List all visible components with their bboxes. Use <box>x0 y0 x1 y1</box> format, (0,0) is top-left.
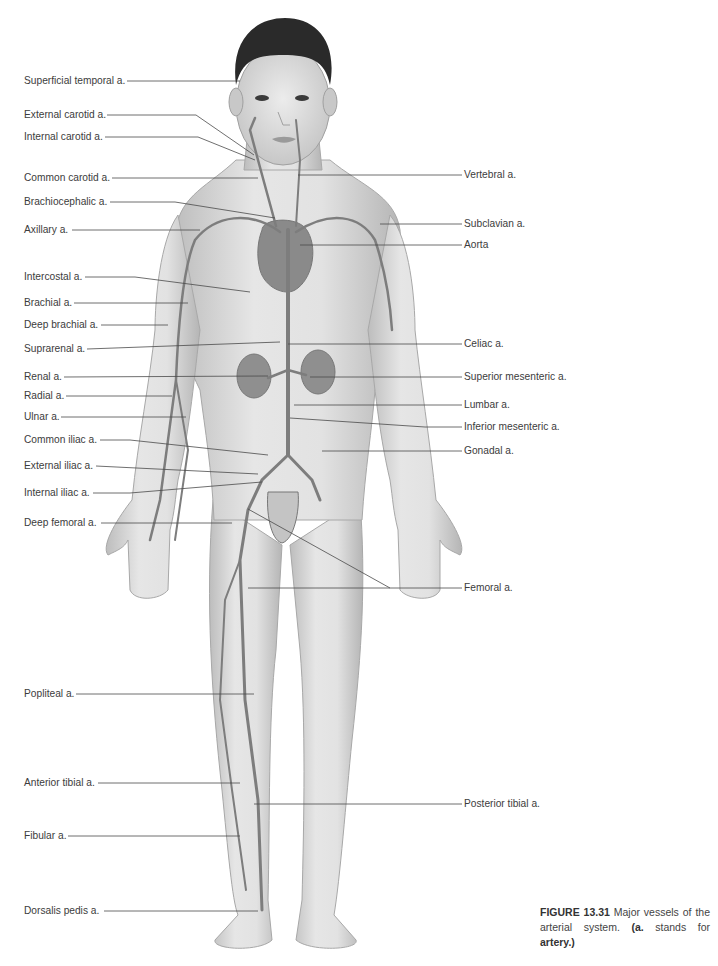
label-subclavian-artery: Subclavian a. <box>464 218 525 230</box>
label-dorsalis-pedis-artery: Dorsalis pedis a. <box>24 905 99 917</box>
label-femoral-artery: Femoral a. <box>464 582 513 594</box>
label-internal-carotid-artery: Internal carotid a. <box>24 131 103 143</box>
label-external-carotid-artery: External carotid a. <box>24 109 106 121</box>
label-popliteal-artery: Popliteal a. <box>24 688 74 700</box>
label-superficial-temporal-artery: Superficial temporal a. <box>24 75 125 87</box>
label-posterior-tibial-artery: Posterior tibial a. <box>464 798 540 810</box>
label-inferior-mesenteric-artery: Inferior mesenteric a. <box>464 421 560 433</box>
label-anterior-tibial-artery: Anterior tibial a. <box>24 777 95 789</box>
head <box>229 18 337 165</box>
label-gonadal-artery: Gonadal a. <box>464 445 514 457</box>
label-brachial-artery: Brachial a. <box>24 297 72 309</box>
right-kidney <box>301 350 335 394</box>
label-fibular-artery: Fibular a. <box>24 830 66 842</box>
label-brachiocephalic-artery: Brachiocephalic a. <box>24 196 107 208</box>
label-superior-mesenteric-artery: Superior mesenteric a. <box>464 371 567 383</box>
label-aorta: Aorta <box>464 239 488 251</box>
label-vertebral-artery: Vertebral a. <box>464 169 516 181</box>
label-external-iliac-artery: External iliac a. <box>24 460 93 472</box>
caption-abbreviation: (a. <box>631 921 643 933</box>
figure-number: FIGURE 13.31 <box>540 906 610 918</box>
label-common-iliac-artery: Common iliac a. <box>24 434 97 446</box>
label-deep-brachial-artery: Deep brachial a. <box>24 319 98 331</box>
label-lumbar-artery: Lumbar a. <box>464 399 510 411</box>
scrotum <box>268 492 299 543</box>
caption-term: artery.) <box>540 936 575 948</box>
label-celiac-artery: Celiac a. <box>464 338 504 350</box>
caption-text-2: stands for <box>644 921 710 933</box>
label-ulnar-artery: Ulnar a. <box>24 411 60 423</box>
label-renal-artery: Renal a. <box>24 371 62 383</box>
arterial-system-illustration <box>0 0 718 966</box>
label-deep-femoral-artery: Deep femoral a. <box>24 517 96 529</box>
label-intercostal-artery: Intercostal a. <box>24 271 82 283</box>
label-internal-iliac-artery: Internal iliac a. <box>24 487 90 499</box>
label-suprarenal-artery: Suprarenal a. <box>24 343 85 355</box>
heart <box>258 220 313 292</box>
label-common-carotid-artery: Common carotid a. <box>24 172 110 184</box>
label-radial-artery: Radial a. <box>24 390 64 402</box>
figure-caption: FIGURE 13.31 Major vessels of the arteri… <box>540 905 710 950</box>
label-axillary-artery: Axillary a. <box>24 224 68 236</box>
